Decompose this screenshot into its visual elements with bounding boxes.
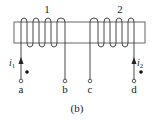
- coil-1-label: 1: [44, 3, 50, 15]
- terminal-label-c: c: [88, 83, 93, 95]
- terminal-label-a: a: [19, 83, 24, 95]
- magnetic-core: [14, 22, 145, 43]
- figure-caption: (b): [71, 102, 84, 115]
- coil-2-label: 2: [117, 3, 123, 15]
- terminal-label-d: d: [131, 83, 137, 95]
- current-label-i1: i1: [9, 57, 16, 70]
- transformer-diagram: 1 2 i1 i2 a b c d (b): [0, 0, 155, 121]
- coil-2: [90, 18, 134, 80]
- terminal-label-b: b: [62, 83, 68, 95]
- current-arrow-i2: [132, 57, 137, 64]
- current-arrow-i1: [19, 57, 24, 64]
- polarity-dot-d: [139, 70, 143, 74]
- polarity-dot-a: [25, 70, 29, 74]
- current-label-i2: i2: [137, 57, 144, 70]
